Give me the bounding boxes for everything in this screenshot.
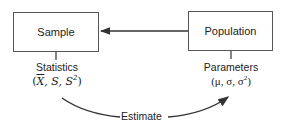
population-node: Population (188, 11, 273, 51)
population-label: Population (205, 25, 257, 37)
sample-node: Sample (13, 12, 99, 52)
parameters-formula: (μ, σ, σ2) (191, 74, 271, 87)
estimate-curve-left (62, 98, 120, 117)
estimate-curve-right (168, 97, 228, 117)
parameters-label: Parameters (191, 61, 271, 73)
statistics-formula: (X, S, S2) (17, 74, 97, 88)
sample-label: Sample (37, 26, 74, 38)
statistics-label: Statistics (17, 61, 97, 73)
estimate-label: Estimate (121, 110, 162, 122)
